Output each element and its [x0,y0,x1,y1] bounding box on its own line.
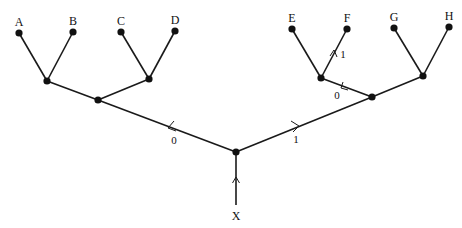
root-label-x: X [232,209,241,223]
leaf-label-e: E [288,11,295,25]
edge-labels: 0 1 0 1 [171,48,346,146]
arrow-right-icon [291,121,299,132]
edge-h [423,27,449,76]
node-right [368,93,375,100]
leaf-label-c: C [117,14,125,28]
node-d [171,27,178,34]
leaf-label-h: H [445,9,454,23]
node-g [390,24,397,31]
edge-label-ef: 0 [334,89,340,101]
edge-label-f: 1 [340,48,346,60]
tree-diagram: A B C D E F G H X 0 1 0 1 [0,0,462,228]
edge-g [394,28,423,76]
node-a [15,29,22,36]
node-left [94,96,101,103]
node-ab [43,77,50,84]
edge-e [292,29,321,78]
edge-left-cd [98,79,149,100]
edge-label-root-right: 1 [293,133,299,145]
node-ef [317,74,324,81]
node-cd [145,75,152,82]
node-e [288,25,295,32]
node-h [445,23,452,30]
node-b [69,28,76,35]
edge-right-gh [372,76,423,97]
leaf-label-f: F [344,11,351,25]
node-f [343,25,350,32]
edge-right-ef [321,78,372,97]
direction-arrows [168,50,348,183]
leaf-label-b: B [69,14,77,28]
leaf-labels: A B C D E F G H X [15,9,454,223]
edge-c [121,32,149,79]
leaf-label-d: D [171,13,180,27]
edge-left-ab [47,81,98,100]
edge-b [47,32,73,81]
edge-d [149,31,175,79]
edge-root-left [98,100,236,152]
edge-root-right [236,97,372,152]
tree-nodes [15,23,452,155]
leaf-label-g: G [390,10,399,24]
tree-edges [19,27,449,205]
leaf-label-a: A [15,15,24,29]
node-root [232,148,239,155]
edge-label-root-left: 0 [171,134,177,146]
node-gh [419,72,426,79]
node-c [117,28,124,35]
edge-a [19,33,47,81]
